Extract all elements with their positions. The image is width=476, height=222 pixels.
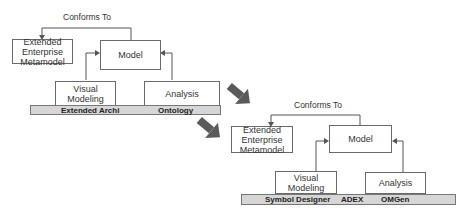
box-line: Extended — [240, 125, 285, 135]
conforms-to-label: Conforms To — [294, 100, 342, 110]
box-line: Metamodel — [20, 57, 65, 67]
visual-modeling-box: Visual Modeling — [55, 81, 116, 106]
bar-label: Ontology — [158, 106, 193, 115]
box-label: Analysis — [379, 178, 413, 188]
box-line: Metamodel — [240, 145, 285, 155]
conforms-to-label: Conforms To — [63, 12, 111, 22]
box-label: Analysis — [165, 89, 199, 99]
bar-label: OMGen — [381, 195, 409, 204]
diagram-after: Conforms To Extended Enterprise Metamode… — [230, 104, 470, 216]
model-box: Model — [329, 125, 392, 153]
box-label: Model — [348, 134, 373, 144]
model-box: Model — [100, 40, 161, 70]
platform-bar: Symbol Designer ADEX OMGen — [241, 194, 456, 205]
analysis-box: Analysis — [144, 81, 220, 106]
metamodel-box: Extended Enterprise Metamodel — [12, 39, 73, 64]
box-line: Modeling — [288, 183, 325, 193]
bar-label: ADEX — [341, 195, 363, 204]
box-label: Model — [118, 50, 143, 60]
box-line: Extended — [20, 37, 65, 47]
bar-label: Symbol Designer — [265, 195, 330, 204]
box-line: Enterprise — [240, 135, 285, 145]
visual-modeling-box: Visual Modeling — [275, 171, 337, 194]
platform-bar: Extended Archi Ontology — [30, 105, 221, 115]
diagram-before: Conforms To Extended Enterprise Metamode… — [0, 0, 230, 120]
analysis-box: Analysis — [365, 172, 426, 194]
box-line: Visual — [288, 173, 325, 183]
box-line: Visual — [67, 84, 104, 94]
box-line: Modeling — [67, 94, 104, 104]
transition-arrow-icon — [196, 116, 224, 142]
box-line: Enterprise — [20, 47, 65, 57]
bar-label: Extended Archi — [61, 106, 119, 115]
metamodel-box: Extended Enterprise Metamodel — [231, 126, 293, 153]
